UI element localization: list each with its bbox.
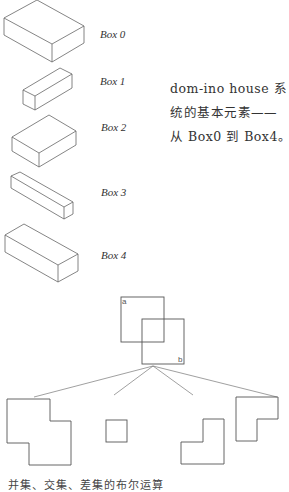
box-0-shape [4, 0, 84, 62]
caption-line-2: 统的基本元素—— [170, 101, 286, 125]
box-2-label: Box 2 [101, 121, 126, 133]
box-1-label: Box 1 [100, 75, 125, 87]
box-1-shape [23, 68, 72, 110]
square-a [121, 297, 164, 342]
connector-lines [34, 366, 277, 397]
box-3-shape [11, 172, 73, 219]
square-a-label: a [122, 297, 127, 306]
box-0-label: Box 0 [100, 28, 125, 40]
intersection-shape [106, 420, 127, 442]
caption-line-1: dom-ino house 系 [170, 77, 286, 101]
difference-a-minus-b-shape [236, 397, 278, 441]
union-shape [7, 399, 71, 465]
caption-line-3: 从 Box0 到 Box4。 [170, 125, 286, 149]
box-3-label: Box 3 [101, 186, 126, 198]
difference-b-minus-a-shape [181, 419, 224, 464]
box-4-shape [5, 224, 78, 282]
caption: dom-ino house 系 统的基本元素—— 从 Box0 到 Box4。 [170, 77, 286, 149]
square-b-label: b [178, 355, 183, 364]
box-4-label: Box 4 [101, 249, 126, 261]
box-2-shape [12, 115, 76, 167]
bottom-caption: 并集、交集、差集的布尔运算 [8, 476, 164, 492]
